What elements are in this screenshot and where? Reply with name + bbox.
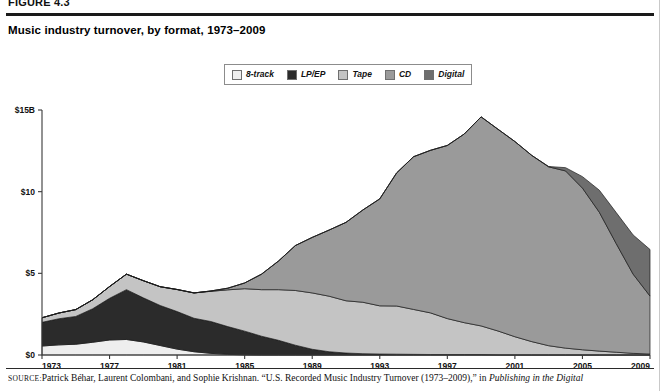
- x-tick-label: 1973: [42, 361, 61, 371]
- x-tick-label: 1993: [370, 361, 389, 371]
- y-tick-label: $15B: [15, 105, 35, 115]
- figure-container: FIGURE 4.3 Music industry turnover, by f…: [0, 0, 660, 391]
- y-tick-label: $10: [21, 187, 35, 197]
- x-tick-label: 2001: [505, 361, 524, 371]
- y-tick-label: $0: [26, 350, 36, 360]
- x-tick-label: 2009: [631, 361, 650, 371]
- x-tick-label: 1981: [168, 361, 187, 371]
- chart-plot-area: $0$5$10$15B19731977198119851989199319972…: [0, 0, 660, 391]
- source-prefix: SOURCE:: [8, 374, 42, 383]
- source-text: Patrick Béhar, Laurent Colombani, and So…: [42, 373, 489, 383]
- footer-rule: [6, 368, 654, 369]
- x-tick-label: 1997: [438, 361, 457, 371]
- x-tick-label: 2005: [573, 361, 592, 371]
- stacked-area-chart: $0$5$10$15B19731977198119851989199319972…: [0, 0, 660, 391]
- y-tick-label: $5: [26, 268, 36, 278]
- x-tick-label: 1989: [303, 361, 322, 371]
- x-tick-label: 1985: [235, 361, 254, 371]
- source-note: SOURCE:Patrick Béhar, Laurent Colombani,…: [8, 372, 654, 385]
- x-tick-label: 1977: [100, 361, 119, 371]
- source-italic-tail: Publishing in the Digital: [489, 373, 583, 383]
